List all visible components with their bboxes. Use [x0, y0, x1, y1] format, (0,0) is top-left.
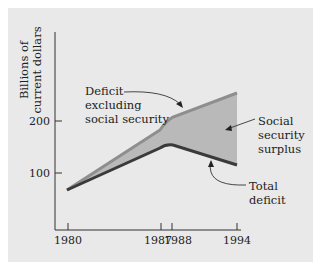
y-tick-label-100: 100 — [29, 167, 50, 180]
annotation-social-security-surplus: Social security surplus — [225, 114, 305, 156]
svg-text:surplus: surplus — [258, 142, 301, 156]
svg-text:Deficit: Deficit — [85, 84, 124, 98]
x-tick-label-1994: 1994 — [223, 234, 251, 247]
arrowhead-icon — [208, 160, 214, 167]
svg-text:excluding: excluding — [85, 98, 142, 112]
y-axis-label: Billions of current dollars — [17, 26, 44, 113]
svg-text:Billions of: Billions of — [17, 40, 31, 99]
svg-text:deficit: deficit — [249, 193, 286, 207]
x-tick-label-1980: 1980 — [54, 234, 82, 247]
svg-text:security: security — [258, 128, 305, 142]
annotation-total-deficit: Total deficit — [208, 160, 286, 207]
svg-text:Social: Social — [258, 114, 294, 128]
svg-text:social security: social security — [85, 112, 169, 126]
x-tick-label-1988: 1988 — [164, 234, 192, 247]
deficit-chart: Billions of current dollars 200 100 1980… — [0, 0, 322, 269]
svg-text:Total: Total — [249, 179, 278, 193]
annotation-deficit-excluding-ss: Deficit excluding social security — [85, 84, 183, 126]
y-tick-label-200: 200 — [29, 115, 50, 128]
svg-text:current dollars: current dollars — [30, 26, 44, 113]
